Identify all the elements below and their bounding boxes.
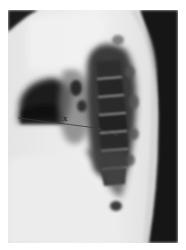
- radiograph-graphic: [8, 10, 178, 243]
- xray-image: x: [8, 10, 178, 243]
- measurement-label: x: [63, 114, 68, 123]
